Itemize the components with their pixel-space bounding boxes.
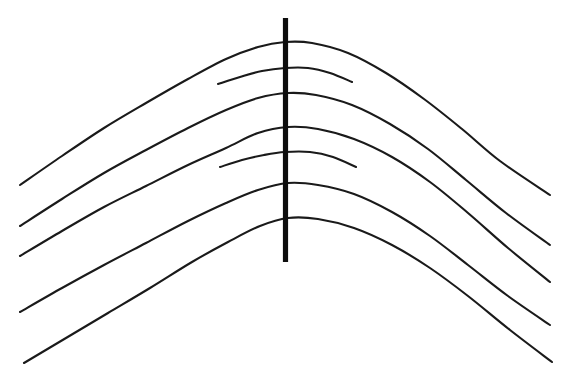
illusion-svg-canvas — [0, 0, 564, 371]
illusion-figure-canvas — [0, 0, 564, 371]
